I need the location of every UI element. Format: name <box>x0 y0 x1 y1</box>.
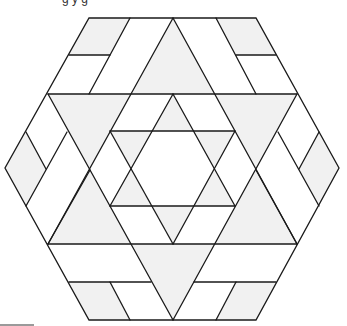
hexagon-pattern-diagram <box>0 0 347 326</box>
shaded-regions <box>5 18 339 320</box>
